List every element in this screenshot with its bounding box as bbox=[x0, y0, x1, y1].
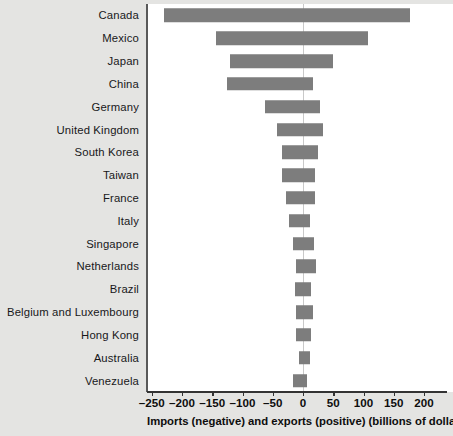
category-label-belgium-and-luxembourg: Belgium and Luxembourg bbox=[7, 306, 139, 318]
category-label-canada: Canada bbox=[99, 9, 139, 21]
x-axis-title: Imports (negative) and exports (positive… bbox=[147, 415, 453, 427]
bar-row: Canada bbox=[0, 4, 453, 27]
x-axis-spine bbox=[147, 391, 447, 393]
category-label-netherlands: Netherlands bbox=[76, 260, 139, 272]
bar-row: United Kingdom bbox=[0, 118, 453, 141]
bar-row: China bbox=[0, 72, 453, 95]
bar-taiwan bbox=[282, 168, 315, 182]
bar-row: Italy bbox=[0, 209, 453, 232]
x-tick-label: 100 bbox=[354, 396, 373, 409]
x-tick-label: –250 bbox=[139, 396, 165, 409]
bar-canada bbox=[164, 9, 410, 23]
category-label-mexico: Mexico bbox=[102, 32, 139, 44]
bar-row: France bbox=[0, 187, 453, 210]
bar-netherlands bbox=[296, 260, 316, 274]
category-label-singapore: Singapore bbox=[86, 238, 139, 250]
bar-venezuela bbox=[293, 374, 307, 388]
category-label-venezuela: Venezuela bbox=[85, 375, 139, 387]
bar-italy bbox=[289, 214, 310, 228]
x-tick-label: –150 bbox=[199, 396, 225, 409]
x-tick-label: –100 bbox=[230, 396, 256, 409]
category-label-japan: Japan bbox=[107, 55, 139, 67]
x-tick-label: 0 bbox=[300, 396, 306, 409]
trade-balance-chart-figure: CanadaMexicoJapanChinaGermanyUnited King… bbox=[0, 0, 453, 436]
bar-row: Hong Kong bbox=[0, 324, 453, 347]
bar-row: Australia bbox=[0, 346, 453, 369]
bar-row: South Korea bbox=[0, 141, 453, 164]
category-label-brazil: Brazil bbox=[110, 283, 139, 295]
bar-row: Netherlands bbox=[0, 255, 453, 278]
category-label-united-kingdom: United Kingdom bbox=[57, 124, 139, 136]
bar-brazil bbox=[295, 283, 312, 297]
bar-row: Japan bbox=[0, 50, 453, 73]
x-tick-label: 200 bbox=[414, 396, 433, 409]
x-tick-label: 50 bbox=[327, 396, 340, 409]
category-label-australia: Australia bbox=[94, 352, 139, 364]
bar-belgium-and-luxembourg bbox=[296, 305, 313, 319]
bar-row: Brazil bbox=[0, 278, 453, 301]
bar-south-korea bbox=[282, 146, 318, 160]
category-label-italy: Italy bbox=[118, 215, 139, 227]
category-label-germany: Germany bbox=[91, 101, 139, 113]
category-label-taiwan: Taiwan bbox=[103, 169, 139, 181]
bar-japan bbox=[230, 54, 333, 68]
bar-row: Singapore bbox=[0, 232, 453, 255]
bar-singapore bbox=[293, 237, 314, 251]
bar-germany bbox=[265, 100, 320, 114]
bar-mexico bbox=[216, 31, 368, 45]
bar-hong-kong bbox=[296, 328, 311, 342]
bar-row: Belgium and Luxembourg bbox=[0, 301, 453, 324]
bar-row: Germany bbox=[0, 95, 453, 118]
category-label-france: France bbox=[103, 192, 139, 204]
bar-row: Taiwan bbox=[0, 164, 453, 187]
category-label-china: China bbox=[109, 78, 139, 90]
bar-row: Mexico bbox=[0, 27, 453, 50]
x-tick-label: –50 bbox=[263, 396, 282, 409]
x-tick-label: 150 bbox=[384, 396, 403, 409]
bar-france bbox=[286, 191, 315, 205]
bar-china bbox=[227, 77, 312, 91]
bar-row: Venezuela bbox=[0, 369, 453, 392]
x-tick-label: –200 bbox=[169, 396, 195, 409]
bar-united-kingdom bbox=[277, 123, 323, 137]
category-label-hong-kong: Hong Kong bbox=[81, 329, 139, 341]
bar-australia bbox=[299, 351, 310, 365]
category-label-south-korea: South Korea bbox=[75, 146, 139, 158]
